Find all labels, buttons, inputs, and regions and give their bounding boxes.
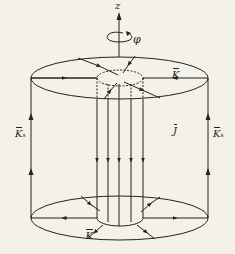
z-axis xyxy=(117,12,122,57)
cylinder-current-diagram: z φ K K J Ks Ks xyxy=(0,0,235,254)
volume-current-lines xyxy=(97,84,143,226)
surface-current-bottom-label: K xyxy=(85,231,92,241)
diagram-drawing xyxy=(0,0,235,254)
inner-cylinder-top xyxy=(97,70,143,86)
side-current-left-label: Ks xyxy=(15,129,26,139)
surface-current-top-label: K xyxy=(172,70,179,80)
side-current-right-label: Ks xyxy=(213,129,224,139)
z-axis-label: z xyxy=(115,1,120,11)
phi-label: φ xyxy=(133,34,141,45)
volume-current-label: J xyxy=(173,126,177,136)
